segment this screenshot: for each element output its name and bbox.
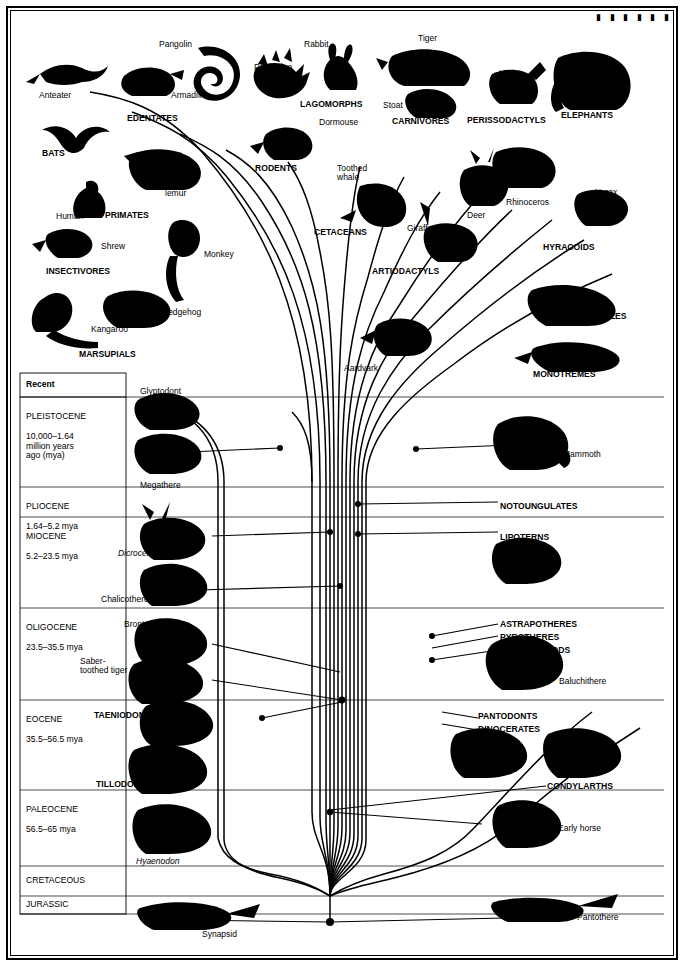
label-hyrax: Hyrax	[595, 188, 617, 197]
label-shrew: Shrew	[101, 242, 125, 251]
label-flying-lemur: Flying lemur	[165, 180, 188, 198]
label-lipoterns: LIPOTERNS	[500, 533, 549, 542]
label-early-horse: Early horse	[558, 824, 601, 833]
label-edentates: EDENTATES	[127, 114, 178, 123]
epoch-pleistocene-detail: 10,000–1.64 million years ago (mya)	[26, 431, 74, 461]
epoch-pleistocene-name: PLEISTOCENE	[26, 411, 86, 421]
epoch-oligocene-name: OLIGOCENE	[26, 622, 77, 632]
label-giraffe: Giraffe	[407, 224, 432, 233]
label-rabbit: Rabbit	[304, 40, 329, 49]
label-elephants: ELEPHANTS	[561, 111, 613, 120]
label-tiger: Tiger	[418, 34, 437, 43]
label-carnivores: CARNIVORES	[392, 117, 449, 126]
epoch-pleistocene: PLEISTOCENE 10,000–1.64 million years ag…	[26, 402, 86, 461]
label-artiodactyls: ARTIODACTYLS	[372, 267, 439, 276]
epoch-miocene: MIOCENE 5.2–23.5 mya	[26, 522, 78, 562]
label-chalicothere: Chalicothere	[101, 595, 149, 604]
label-synapsid: Synapsid	[202, 930, 237, 939]
label-rhinoceros: Rhinoceros	[506, 198, 549, 207]
label-rodents: RODENTS	[255, 164, 297, 173]
registration-marks: ▮ ▮ ▮ ▮ ▮ ▮	[12, 12, 672, 22]
label-saber-toothed-tiger: Saber- toothed tiger	[80, 657, 127, 675]
label-marsupials: MARSUPIALS	[79, 350, 136, 359]
label-tillodonts: TILLODONTS	[96, 780, 151, 789]
label-pangolin: Pangolin	[159, 40, 192, 49]
label-hyracoids: HYRACOIDS	[543, 243, 595, 252]
label-brontothere: Brontothere	[124, 620, 168, 629]
epoch-oligocene-detail: 23.5–35.5 mya	[26, 642, 83, 652]
epoch-paleocene-detail: 56.5–65 mya	[26, 824, 76, 834]
diagram-page: ▮ ▮ ▮ ▮ ▮ ▮ Recent PLEISTOCENE 10,000–1.…	[0, 0, 684, 966]
label-megathere: Megathere	[140, 481, 181, 490]
epoch-paleocene: PALEOCENE 56.5–65 mya	[26, 795, 78, 835]
label-dormouse: Dormouse	[319, 118, 358, 127]
epoch-eocene-detail: 35.5–56.5 mya	[26, 734, 83, 744]
time-header-recent: Recent	[26, 380, 55, 390]
epoch-paleocene-name: PALEOCENE	[26, 804, 78, 814]
label-glyptodont: Glyptodont	[140, 387, 181, 396]
label-monotremes: MONOTREMES	[533, 370, 596, 379]
epoch-pliocene-name: PLIOCENE	[26, 501, 69, 511]
label-dinocerates: DINOCERATES	[478, 725, 540, 734]
diagram-canvas: ▮ ▮ ▮ ▮ ▮ ▮ Recent PLEISTOCENE 10,000–1.…	[12, 12, 672, 954]
label-taeniodonts: TAENIODONTS	[94, 711, 156, 720]
label-hedgehog: Hedgehog	[162, 308, 201, 317]
label-primates: PRIMATES	[105, 211, 149, 220]
label-baluchithere: Baluchithere	[559, 677, 606, 686]
label-armadillo: Armadillo	[171, 91, 206, 100]
label-cetaceans: CETACEANS	[314, 228, 367, 237]
registration-marks-glyphs: ▮ ▮ ▮ ▮ ▮ ▮	[596, 12, 672, 22]
epoch-miocene-name: MIOCENE	[26, 531, 66, 541]
epoch-cretaceous: CRETACEOUS	[26, 876, 85, 886]
label-perissodactyls: PERISSODACTYLS	[467, 116, 546, 125]
label-toothed-whale: Toothed whale	[337, 164, 367, 182]
tree-lines-layer	[12, 12, 672, 954]
label-embrithopods: EMBRITHOPODS	[500, 646, 570, 655]
label-stoat: Stoat	[383, 101, 403, 110]
epoch-miocene-detail: 5.2–23.5 mya	[26, 551, 78, 561]
label-aardvark: Aardvark	[344, 364, 378, 373]
label-pyrotheres: PYROTHERES	[500, 633, 559, 642]
epoch-jurassic: JURASSIC	[26, 900, 69, 910]
label-condylarths: CONDYLARTHS	[547, 782, 613, 791]
label-insectivores: INSECTIVORES	[46, 267, 110, 276]
epoch-oligocene: OLIGOCENE 23.5–35.5 mya	[26, 613, 83, 653]
label-pantothere: Pantothere	[577, 913, 619, 922]
label-lagomorphs: LAGOMORPHS	[300, 100, 363, 109]
label-hyaenodon: Hyaenodon	[136, 857, 179, 866]
label-horse: Horse	[499, 69, 522, 78]
label-human: Human	[56, 212, 83, 221]
label-kangaroo: Kangaroo	[91, 325, 128, 334]
label-manatees: MANATEES	[579, 312, 627, 321]
label-astrapotheres: ASTRAPOTHERES	[500, 620, 577, 629]
label-dicroceros: Dicroceros	[118, 549, 159, 558]
label-mammoth: Mammoth	[563, 450, 601, 459]
label-bats: BATS	[42, 149, 65, 158]
label-anteater: Anteater	[39, 91, 71, 100]
label-pantodonts: PANTODONTS	[478, 712, 537, 721]
label-deer: Deer	[467, 211, 485, 220]
epoch-eocene-name: EOCENE	[26, 714, 62, 724]
label-porcupine: Porcupine	[254, 63, 292, 72]
label-notoungulates: NOTOUNGULATES	[500, 502, 578, 511]
label-monkey: Monkey	[204, 250, 234, 259]
epoch-eocene: EOCENE 35.5–56.5 mya	[26, 705, 83, 745]
